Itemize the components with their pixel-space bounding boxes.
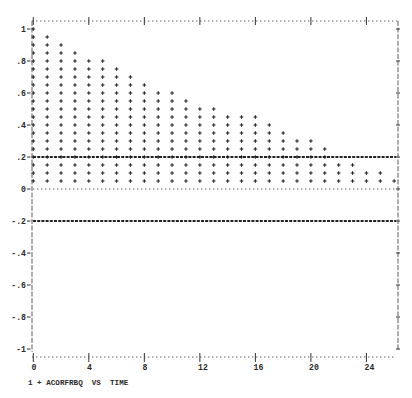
plus-marker xyxy=(337,179,341,183)
plus-marker xyxy=(351,179,355,183)
plus-marker xyxy=(226,123,230,127)
plus-marker xyxy=(254,155,258,159)
plus-marker xyxy=(143,99,147,103)
plus-marker xyxy=(73,179,77,183)
data-column xyxy=(337,163,341,183)
plus-marker xyxy=(184,179,188,183)
data-column xyxy=(170,91,174,183)
plus-marker xyxy=(73,131,77,135)
plus-marker xyxy=(101,171,105,175)
plus-marker xyxy=(281,139,285,143)
plus-marker xyxy=(323,179,327,183)
plus-marker xyxy=(170,115,174,119)
plus-marker xyxy=(87,99,91,103)
plus-marker xyxy=(295,139,299,143)
data-column xyxy=(87,59,91,183)
plus-marker xyxy=(87,67,91,71)
plus-marker xyxy=(170,107,174,111)
plus-marker xyxy=(184,155,188,159)
plus-marker xyxy=(170,163,174,167)
plus-marker xyxy=(143,179,147,183)
plus-marker xyxy=(267,163,271,167)
plus-marker xyxy=(365,179,369,183)
plus-marker xyxy=(170,91,174,95)
plus-marker xyxy=(129,171,133,175)
plus-marker xyxy=(59,99,63,103)
plus-marker xyxy=(87,171,91,175)
plus-marker xyxy=(59,91,63,95)
legend-label: 1 + ACORFRBQ VS TIME xyxy=(28,379,129,387)
plus-marker xyxy=(129,99,133,103)
plus-marker xyxy=(115,67,119,71)
data-column xyxy=(59,43,63,183)
plus-marker xyxy=(156,131,160,135)
plus-marker xyxy=(267,139,271,143)
plus-marker xyxy=(184,107,188,111)
plus-marker xyxy=(45,35,49,39)
y-tick-label: .6 xyxy=(16,89,26,98)
plus-marker xyxy=(309,139,313,143)
plus-marker xyxy=(240,123,244,127)
plus-marker xyxy=(101,91,105,95)
plus-marker xyxy=(115,99,119,103)
plus-marker xyxy=(254,163,258,167)
data-column xyxy=(73,51,77,183)
plus-marker xyxy=(184,123,188,127)
plus-marker xyxy=(323,155,327,159)
plus-marker xyxy=(59,123,63,127)
chart-figure: 1.8.6.4.20-.2-.4-.6-.8-1 04812162024 1 +… xyxy=(0,0,412,398)
plus-marker xyxy=(254,131,258,135)
plus-marker xyxy=(87,155,91,159)
plus-marker xyxy=(240,131,244,135)
plus-marker xyxy=(45,163,49,167)
x-tick-label: 20 xyxy=(309,363,319,372)
plus-marker xyxy=(87,83,91,87)
plus-marker xyxy=(184,115,188,119)
plus-marker xyxy=(143,115,147,119)
plus-marker xyxy=(226,131,230,135)
plus-marker xyxy=(156,107,160,111)
plus-marker xyxy=(212,107,216,111)
plus-marker xyxy=(129,131,133,135)
plus-marker xyxy=(101,147,105,151)
plus-marker xyxy=(198,163,202,167)
plus-marker xyxy=(198,147,202,151)
plus-marker xyxy=(254,115,258,119)
plus-marker xyxy=(309,155,313,159)
plus-marker xyxy=(87,107,91,111)
plus-marker xyxy=(156,99,160,103)
plus-marker xyxy=(184,163,188,167)
plus-marker xyxy=(212,179,216,183)
plus-marker xyxy=(59,163,63,167)
plus-marker xyxy=(143,107,147,111)
plus-marker xyxy=(59,147,63,151)
plus-marker xyxy=(295,171,299,175)
plus-marker xyxy=(129,107,133,111)
plus-marker xyxy=(129,139,133,143)
plus-marker xyxy=(156,171,160,175)
plus-marker xyxy=(129,179,133,183)
plus-marker xyxy=(184,171,188,175)
plus-marker xyxy=(240,179,244,183)
plus-marker xyxy=(254,179,258,183)
plus-marker xyxy=(59,171,63,175)
plus-marker xyxy=(59,115,63,119)
plus-marker xyxy=(281,155,285,159)
plus-marker xyxy=(143,139,147,143)
plus-marker xyxy=(59,83,63,87)
plus-marker xyxy=(115,107,119,111)
plus-marker xyxy=(170,179,174,183)
plus-marker xyxy=(184,131,188,135)
plus-marker xyxy=(45,171,49,175)
plus-marker xyxy=(143,83,147,87)
plus-marker xyxy=(295,155,299,159)
x-tick-label: 0 xyxy=(32,363,37,372)
plus-marker xyxy=(212,139,216,143)
plus-marker xyxy=(73,99,77,103)
data-column xyxy=(212,107,216,183)
plus-marker xyxy=(101,83,105,87)
data-column xyxy=(323,147,327,183)
plus-marker xyxy=(170,99,174,103)
data-column xyxy=(392,179,396,183)
plus-marker xyxy=(143,131,147,135)
